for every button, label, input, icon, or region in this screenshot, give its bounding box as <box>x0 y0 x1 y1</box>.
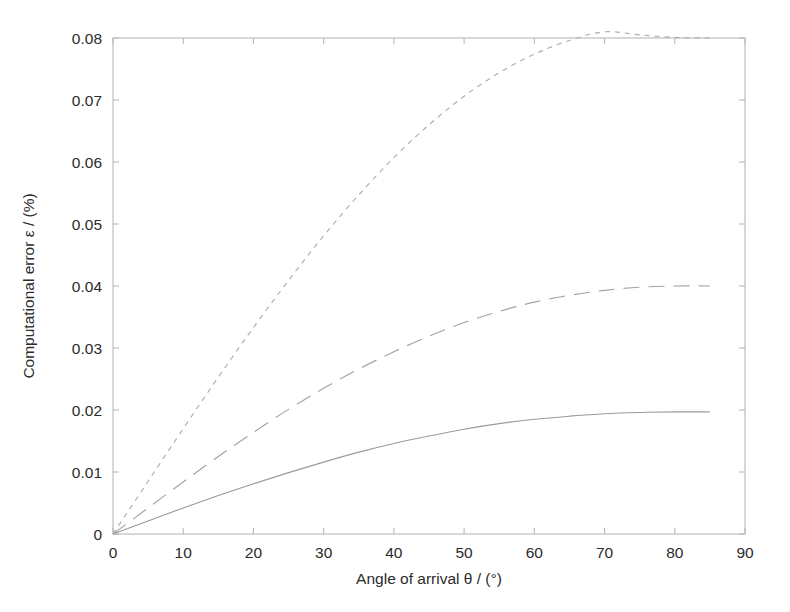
x-axis-tick-labels: 0102030405060708090 <box>109 544 754 561</box>
x-tick-label: 0 <box>109 544 118 561</box>
y-axis-title: Computational error ε / (%) <box>20 193 37 378</box>
y-tick-label: 0.02 <box>72 402 102 419</box>
y-tick-label: 0.06 <box>72 154 102 171</box>
x-tick-label: 90 <box>736 544 754 561</box>
x-tick-label: 20 <box>245 544 263 561</box>
plot-frame <box>113 38 745 534</box>
y-tick-label: 0.05 <box>72 216 102 233</box>
y-tick-label: 0.07 <box>72 92 102 109</box>
x-tick-label: 40 <box>385 544 403 561</box>
x-tick-label: 30 <box>315 544 333 561</box>
chart-plot: 0102030405060708090 00.010.020.030.040.0… <box>0 0 790 612</box>
y-tick-label: 0.03 <box>72 340 102 357</box>
y-tick-label: 0 <box>93 526 102 543</box>
x-tick-label: 80 <box>666 544 684 561</box>
series-dashed <box>113 286 710 534</box>
y-tick-label: 0.04 <box>72 278 103 295</box>
series-solid <box>113 412 710 534</box>
x-tick-label: 50 <box>455 544 473 561</box>
y-tick-label: 0.08 <box>72 30 102 47</box>
y-axis-ticks <box>113 38 745 534</box>
y-tick-label: 0.01 <box>72 464 102 481</box>
x-axis-title: Angle of arrival θ / (°) <box>356 570 502 587</box>
x-axis-ticks <box>113 38 745 534</box>
x-tick-label: 70 <box>596 544 614 561</box>
series-dotted <box>113 32 710 534</box>
y-axis-tick-labels: 00.010.020.030.040.050.060.070.08 <box>72 30 103 543</box>
data-series-group <box>113 32 710 534</box>
figure-canvas: 0102030405060708090 00.010.020.030.040.0… <box>0 0 790 612</box>
x-tick-label: 60 <box>526 544 544 561</box>
x-tick-label: 10 <box>175 544 193 561</box>
